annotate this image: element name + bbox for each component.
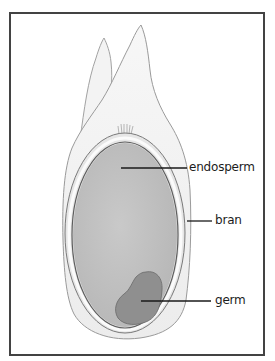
bran-label: bran [215, 213, 242, 227]
endosperm-label: endosperm [189, 160, 255, 174]
germ-label: germ [215, 293, 246, 307]
